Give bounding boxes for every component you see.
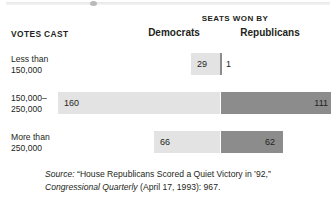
row-label: 150,000– 250,000 (11, 93, 47, 114)
bar-value-republicans: 62 (265, 131, 330, 153)
bar-value-democrats: 66 (160, 131, 170, 153)
votes-cast-seats-won-chart: SEATS WON BY VOTES CAST Democrats Republ… (0, 0, 336, 202)
bar-value-democrats: 29 (197, 53, 207, 75)
source-title: “House Republicans Scored a Quiet Victor… (77, 169, 271, 179)
chart-row: More than 250,000 66 62 (0, 131, 336, 161)
source-details: (April 17, 1993): 967. (140, 182, 220, 192)
source-publication: Congressional Quarterly (45, 182, 138, 192)
chart-rows: Less than 150,000 29 1 150,000– 250,000 … (0, 0, 336, 160)
row-label: Less than 150,000 (11, 54, 48, 75)
row-label: More than 250,000 (11, 132, 50, 153)
bar-value-democrats: 160 (64, 92, 79, 114)
source-prefix: Source: (45, 169, 75, 179)
chart-row: 150,000– 250,000 160 111 (0, 92, 336, 122)
source-note: Source: “House Republicans Scored a Quie… (45, 168, 331, 193)
bar-democrats (58, 92, 220, 114)
bar-value-republicans: 111 (314, 92, 328, 114)
chart-row: Less than 150,000 29 1 (0, 53, 336, 83)
bar-value-republicans: 1 (226, 53, 231, 75)
bar-republicans (220, 53, 222, 75)
